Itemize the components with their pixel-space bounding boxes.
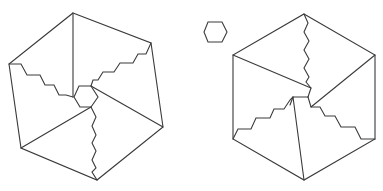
right-hexagon-figure [233,14,375,180]
left-cut-bottom-zigzag [91,107,97,180]
right-cut-top-zigzag [304,14,311,97]
right-cut-lower-right-staircase [308,97,375,139]
right-cut-upper-left-straight [233,55,311,88]
left-outer-hexagon [9,13,163,180]
left-cut-lower-left-straight [21,107,91,148]
small-hexagon-piece [204,22,227,42]
left-hexagon-figure [9,13,163,180]
left-cut-upper-right-staircase [91,43,151,86]
dissection-figure [0,0,383,191]
left-cut-right-straight [91,86,163,127]
left-cut-upper-left-staircase [9,64,73,97]
left-center-hexagon [74,86,98,107]
right-cut-upper-right-straight [311,55,375,107]
right-cut-bottom-straight [293,97,304,180]
right-cut-lower-left-staircase [233,97,293,139]
